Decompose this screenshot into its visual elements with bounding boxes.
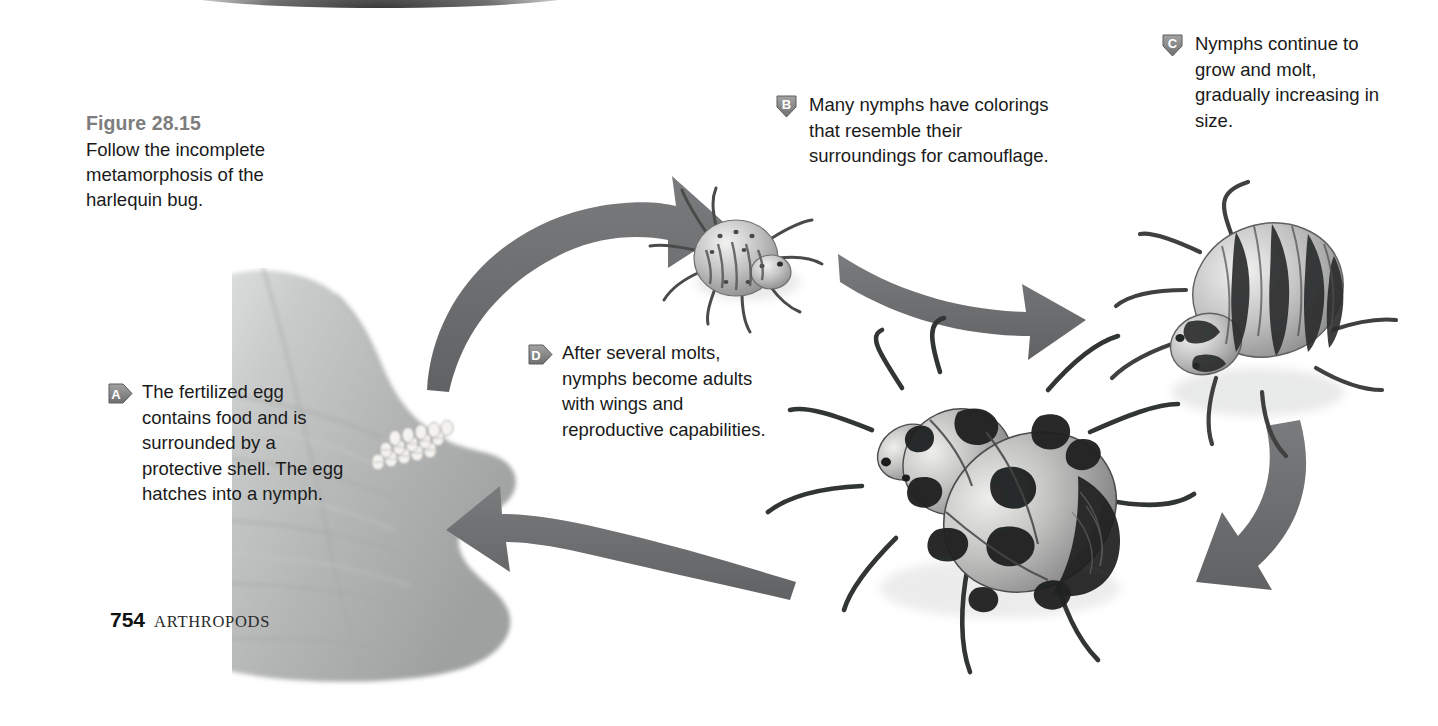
section-name: ARTHROPODS — [154, 612, 270, 632]
badge-c-icon: C — [1161, 34, 1186, 57]
arrow-nymph-to-large-nymph — [838, 254, 1086, 360]
scan-edge-artifact — [170, 0, 590, 8]
figure-number: Figure 28.15 — [86, 112, 336, 135]
adult-bug-illustration — [768, 318, 1194, 672]
callout-c-text: Nymphs continue to grow and molt, gradua… — [1195, 31, 1391, 133]
svg-text:B: B — [782, 97, 791, 112]
callout-c: C Nymphs continue to grow and molt, grad… — [1161, 31, 1391, 133]
svg-text:D: D — [531, 348, 540, 363]
callout-b-text: Many nymphs have colorings that resemble… — [809, 92, 1065, 169]
svg-text:C: C — [1168, 36, 1178, 51]
svg-text:A: A — [111, 387, 121, 402]
large-nymph-illustration — [1112, 182, 1396, 456]
callout-d-text: After several molts, nymphs become adult… — [562, 340, 768, 442]
page-number: 754 — [110, 608, 145, 632]
badge-d-icon: D — [528, 343, 553, 366]
callout-b: B Many nymphs have colorings that resemb… — [775, 92, 1065, 169]
callout-a: A The fertilized egg contains food and i… — [108, 379, 348, 507]
small-nymph-illustration — [650, 188, 822, 332]
figure-caption: Figure 28.15 Follow the incomplete metam… — [86, 112, 336, 212]
figure-description: Follow the incomplete metamorphosis of t… — [86, 137, 336, 212]
arrow-large-nymph-to-adult — [1196, 420, 1306, 590]
callout-d: D After several molts, nymphs become adu… — [528, 340, 768, 442]
callout-a-text: The fertilized egg contains food and is … — [142, 379, 348, 507]
badge-a-icon: A — [108, 382, 133, 405]
badge-b-icon: B — [775, 95, 800, 118]
page-footer: 754 ARTHROPODS — [110, 608, 270, 632]
